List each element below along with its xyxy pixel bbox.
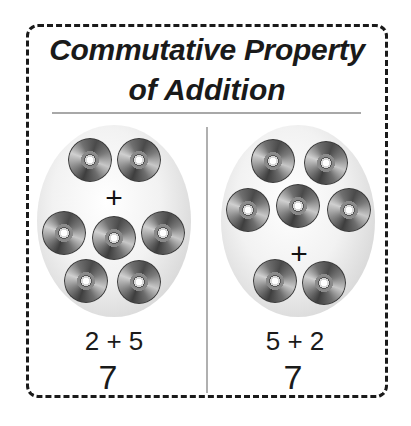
- cd-disc-icon: [92, 216, 136, 260]
- cd-disc-icon: [117, 260, 161, 304]
- cd-disc-icon: [302, 261, 346, 305]
- cd-disc-icon: [42, 211, 86, 255]
- cd-disc-icon: [304, 141, 348, 185]
- title-divider: [52, 112, 361, 114]
- cd-disc-icon: [117, 138, 161, 182]
- cd-disc-icon: [64, 259, 108, 303]
- left-sum: 7: [33, 358, 183, 397]
- right-equation: 5 + 2: [220, 326, 370, 357]
- title-line-1: Commutative Property: [26, 32, 388, 68]
- cd-disc-icon: [327, 188, 371, 232]
- title-line-2: of Addition: [26, 72, 388, 108]
- cd-disc-icon: [276, 184, 320, 228]
- right-sum: 7: [218, 358, 368, 397]
- cd-disc-icon: [253, 259, 297, 303]
- plus-sign: +: [99, 183, 129, 213]
- cd-disc-icon: [68, 138, 112, 182]
- cd-disc-icon: [226, 188, 270, 232]
- cd-disc-icon: [251, 139, 295, 183]
- left-equation: 2 + 5: [39, 326, 189, 357]
- panel-divider: [206, 127, 208, 393]
- cd-disc-icon: [141, 211, 185, 255]
